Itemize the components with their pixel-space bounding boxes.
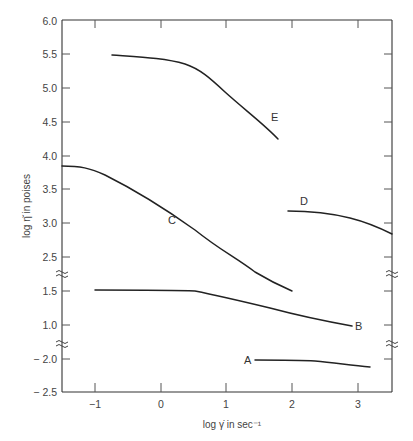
curve-B xyxy=(95,290,352,326)
y-tick-label: 2.5 xyxy=(42,251,57,263)
curve-label-C: C xyxy=(168,214,176,226)
curve-A xyxy=(255,360,370,367)
y-tick-label: 3.0 xyxy=(42,217,57,229)
y-tick-label: 6.0 xyxy=(42,15,57,27)
viscosity-chart: 6.0 5.5 5.0 4.5 4.0 3.5 3.0 2.5 1.5 1.0 … xyxy=(0,0,413,441)
y-tick-label: − 2.0 xyxy=(33,353,57,365)
y-tick-label: 5.5 xyxy=(42,48,57,60)
x-tick-label: 0 xyxy=(158,398,164,410)
x-tick-labels: −1 0 1 2 3 xyxy=(89,398,361,410)
y-tick-label: − 2.5 xyxy=(33,386,57,398)
curve-E xyxy=(112,55,278,139)
y-tick-label: 1.0 xyxy=(42,319,57,331)
y-axis-title: log η̆ in poises xyxy=(21,174,32,238)
curve-label-D: D xyxy=(300,195,308,207)
y-ticks xyxy=(62,54,392,359)
y-tick-label: 4.0 xyxy=(42,150,57,162)
curves xyxy=(62,55,392,367)
curve-label-E: E xyxy=(271,111,278,123)
x-tick-label: −1 xyxy=(89,398,101,410)
x-tick-label: 2 xyxy=(289,398,295,410)
curve-C xyxy=(62,166,292,291)
y-tick-label: 5.0 xyxy=(42,82,57,94)
curve-label-B: B xyxy=(355,320,362,332)
x-axis-title: log γ̇ in sec⁻¹ xyxy=(203,419,262,430)
axis-break-marks xyxy=(56,271,398,348)
plot-frame xyxy=(62,20,392,392)
y-tick-label: 3.5 xyxy=(42,183,57,195)
y-tick-labels: 6.0 5.5 5.0 4.5 4.0 3.5 3.0 2.5 1.5 1.0 … xyxy=(33,15,57,398)
x-tick-label: 1 xyxy=(223,398,229,410)
curve-D xyxy=(288,211,392,234)
x-ticks xyxy=(95,20,358,392)
curve-labels: E C D B A xyxy=(168,111,362,366)
y-tick-label: 1.5 xyxy=(42,285,57,297)
x-tick-label: 3 xyxy=(355,398,361,410)
y-tick-label: 4.5 xyxy=(42,116,57,128)
curve-label-A: A xyxy=(244,354,252,366)
